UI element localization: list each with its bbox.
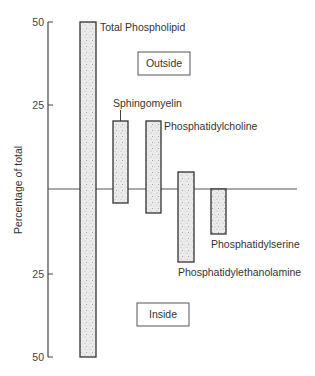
y-tick-50-top: 50 [32,16,44,28]
bar-phosphatidylserine [211,189,226,234]
label-total-phospholipid: Total Phospholipid [100,21,185,33]
label-phosphatidylcholine: Phosphatidylcholine [164,120,258,132]
inside-box: Inside [137,303,189,326]
chart: 50 25 25 50 Percentage of total Total Ph… [0,0,315,376]
bar-phosphatidylethanolamine [178,172,194,262]
y-tick-50-bottom: 50 [32,351,44,363]
label-sphingomyelin: Sphingomyelin [113,97,182,109]
inside-label: Inside [149,308,177,320]
bar-phosphatidylcholine [146,121,161,213]
y-tick-25-bottom: 25 [32,268,44,280]
y-axis-label: Percentage of total [12,146,24,234]
label-phosphatidylethanolamine: Phosphatidylethanolamine [178,266,301,278]
bar-total-phospholipid [80,22,96,357]
y-axis: 50 25 25 50 Percentage of total [12,16,53,363]
outside-box: Outside [138,52,190,75]
label-phosphatidylserine: Phosphatidylserine [211,238,300,250]
outside-label: Outside [146,57,182,69]
bar-sphingomyelin [113,121,128,203]
y-tick-25-top: 25 [32,99,44,111]
